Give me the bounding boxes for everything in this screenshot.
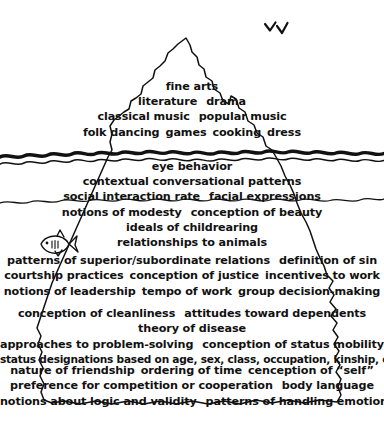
band-deepest-culture: nature of friendshipordering of timecenc… — [0, 363, 384, 409]
band-line: patterns of superior/subordinate relatio… — [0, 253, 384, 268]
band-visible-culture: fine arts literaturedrama classical musi… — [0, 79, 384, 140]
band-line: notions of modestyconception of beauty — [0, 205, 384, 220]
band-line: theory of disease — [0, 321, 384, 336]
band-line: fine arts — [0, 79, 384, 94]
band-line: classical musicpopular music — [0, 109, 384, 124]
band-line: courtship practicesconception of justice… — [0, 268, 384, 283]
band-line: nature of friendshipordering of timecenc… — [0, 363, 384, 378]
band-surface-culture: eye behavior contextual conversational p… — [0, 159, 384, 205]
band-line: preference for competition or cooperatio… — [0, 378, 384, 393]
band-line: notions about logic and validitypatterns… — [0, 394, 384, 409]
band-line: notions of leadershiptempo of workgroup … — [0, 284, 384, 299]
band-line: conception of cleanlinessattitudes towar… — [0, 306, 384, 321]
band-line: literaturedrama — [0, 94, 384, 109]
band-line: contextual conversational patterns — [0, 174, 384, 189]
band-line: ideals of childrearing — [0, 220, 384, 235]
band-line: eye behavior — [0, 159, 384, 174]
iceberg-text-layers: fine arts literaturedrama classical musi… — [0, 0, 384, 431]
band-line: relationships to animals — [0, 235, 384, 250]
band-shallow-culture: notions of modestyconception of beauty i… — [0, 205, 384, 251]
band-deep-culture: conception of cleanlinessattitudes towar… — [0, 306, 384, 368]
band-mid-culture: patterns of superior/subordinate relatio… — [0, 253, 384, 299]
band-line: approaches to problem-solvingconception … — [0, 337, 384, 352]
iceberg-diagram: fine arts literaturedrama classical musi… — [0, 0, 384, 431]
band-line: folk dancinggamescookingdress — [0, 125, 384, 140]
band-line: social interaction ratefacial expression… — [0, 189, 384, 204]
